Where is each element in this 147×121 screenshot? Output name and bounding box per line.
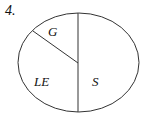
- pie-chart: G LE S: [0, 0, 147, 121]
- label-le: LE: [33, 74, 49, 89]
- label-s: S: [92, 74, 99, 89]
- label-g: G: [48, 24, 58, 39]
